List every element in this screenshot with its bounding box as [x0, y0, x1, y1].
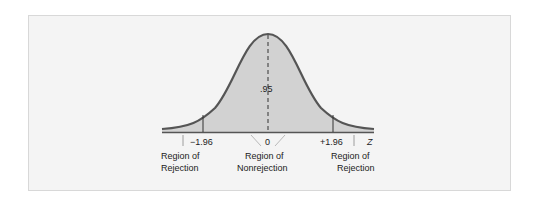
center-region-label-2: Nonrejection	[237, 163, 288, 173]
area-label: .95	[260, 84, 273, 94]
tick-label-center: 0	[265, 137, 270, 147]
curve-area	[162, 34, 374, 132]
right-region-label-2: Rejection	[337, 163, 375, 173]
axis-label-z: Z	[366, 137, 373, 147]
right-region-label-1: Region of	[331, 151, 370, 161]
left-region-label-2: Rejection	[161, 163, 199, 173]
arrow-nonrejection-right	[275, 135, 285, 146]
tick-label-right: +1.96	[320, 137, 343, 147]
left-region-label-1: Region of	[161, 151, 200, 161]
center-region-label-1: Region of	[245, 151, 284, 161]
arrow-nonrejection-left	[251, 135, 261, 146]
normal-curve-diagram: .95 −1.96 0 +1.96 Z Region of Rejection …	[0, 0, 552, 204]
tick-label-left: −1.96	[190, 137, 213, 147]
